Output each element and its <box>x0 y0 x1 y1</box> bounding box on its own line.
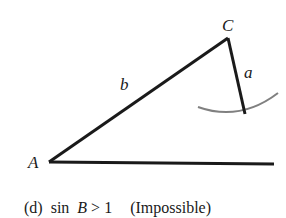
vertex-label-c: C <box>222 16 234 35</box>
caption-var: B <box>77 199 87 216</box>
triangle-diagram: C A b a (d) sin B > 1 (Impossible) <box>0 0 286 218</box>
radius-arc <box>198 93 278 112</box>
side-label-a: a <box>244 63 253 82</box>
caption-sin: sin <box>51 199 70 216</box>
side-label-b: b <box>120 75 129 94</box>
side-b <box>49 38 228 162</box>
side-a <box>228 38 245 114</box>
caption-cond: > 1 <box>91 199 112 216</box>
caption-part: (d) <box>24 199 43 217</box>
vertex-label-a: A <box>27 153 39 172</box>
caption-note: (Impossible) <box>130 199 211 217</box>
figure-caption: (d) sin B > 1 (Impossible) <box>24 199 211 217</box>
baseline <box>49 162 274 164</box>
